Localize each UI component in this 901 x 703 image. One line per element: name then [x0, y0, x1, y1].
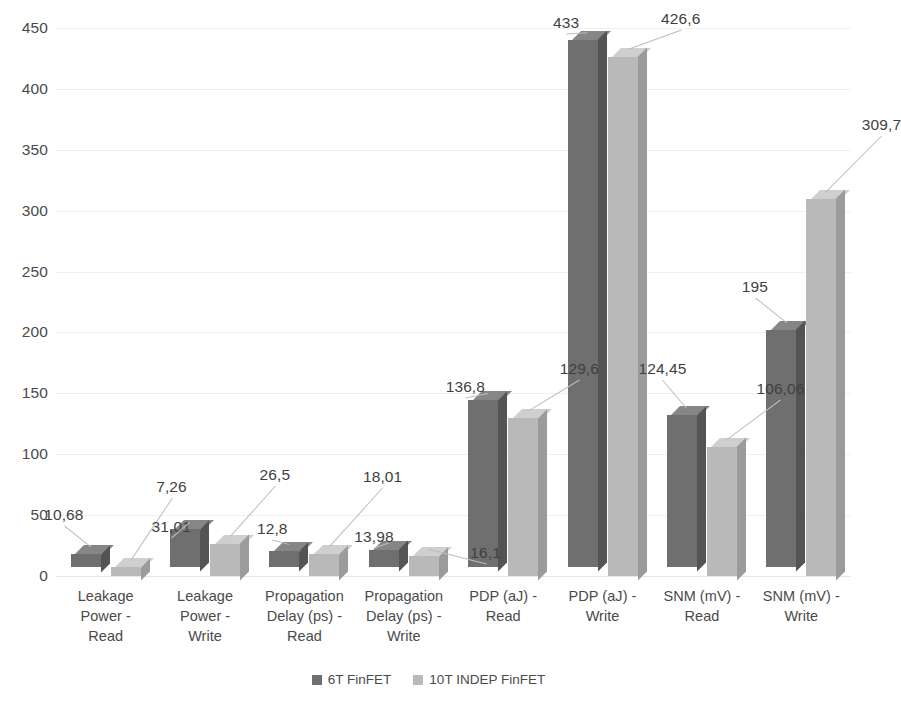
bar-side-face: [697, 406, 706, 571]
x-axis-category-label-line: Leakage: [56, 586, 155, 606]
chart-legend: 6T FinFET10T INDEP FinFET: [0, 672, 857, 687]
data-label: 26,5: [260, 466, 291, 484]
bar-front-face: [369, 550, 399, 567]
bar-side-face: [836, 190, 845, 581]
gridline: [56, 272, 851, 273]
x-axis-category-label-line: Write: [752, 606, 851, 626]
y-axis-tick-label: 400: [0, 80, 48, 98]
data-label: 12,8: [257, 520, 288, 538]
bar: [71, 554, 101, 567]
x-axis-category-label-line: Read: [255, 626, 354, 646]
bar-front-face: [806, 199, 836, 576]
bar-front-face: [71, 554, 101, 567]
bar-front-face: [766, 330, 796, 567]
bar-front-face: [707, 447, 737, 576]
x-axis-category-label-line: Leakage: [155, 586, 254, 606]
y-axis-tick-label: 50: [0, 506, 48, 524]
bar: [111, 567, 141, 576]
data-label: 433: [553, 14, 579, 32]
bar-front-face: [667, 415, 697, 567]
x-axis-category-label-line: Write: [155, 626, 254, 646]
x-axis-category-label-line: Read: [454, 606, 553, 626]
bar-front-face: [568, 40, 598, 567]
gridline: [56, 576, 851, 577]
plot-area: 10,687,2631,0126,512,818,0113,9816,1136,…: [56, 28, 851, 576]
data-label: 16,1: [470, 544, 501, 562]
bar: [409, 556, 439, 576]
data-label: 426,6: [661, 10, 700, 28]
y-axis-tick-label: 250: [0, 263, 48, 281]
x-axis-category-label-line: Write: [553, 606, 652, 626]
x-axis-category-label-line: Read: [56, 626, 155, 646]
y-axis-tick-label: 300: [0, 202, 48, 220]
data-label: 10,68: [44, 506, 83, 524]
legend-label: 10T INDEP FinFET: [429, 672, 545, 687]
bar-side-face: [796, 321, 805, 572]
bar-side-face: [598, 31, 607, 572]
bar-side-face: [538, 409, 547, 580]
bar-front-face: [111, 567, 141, 576]
legend-swatch-icon: [413, 675, 423, 685]
legend-swatch-icon: [312, 675, 322, 685]
bar: [608, 57, 638, 577]
x-axis-category-label-line: Propagation: [354, 586, 453, 606]
legend-item[interactable]: 10T INDEP FinFET: [413, 672, 545, 687]
x-axis-category-label-line: Read: [652, 606, 751, 626]
data-label: 18,01: [363, 468, 402, 486]
bar: [508, 418, 538, 576]
bar: [269, 551, 299, 567]
x-axis-category-label-line: Propagation: [255, 586, 354, 606]
x-axis-category-label: LeakagePower -Write: [155, 586, 254, 646]
gridline: [56, 211, 851, 212]
x-axis-category-label: PDP (aJ) -Write: [553, 586, 652, 626]
x-axis-category-label-line: SNM (mV) -: [652, 586, 751, 606]
bar: [667, 415, 697, 567]
y-axis-tick-label: 450: [0, 19, 48, 37]
data-label: 195: [742, 278, 768, 296]
bar: [210, 544, 240, 576]
y-axis-tick-label: 200: [0, 323, 48, 341]
data-label-leader-line: [64, 526, 91, 548]
data-label: 136,8: [446, 378, 485, 396]
x-axis-category-label: PDP (aJ) -Read: [454, 586, 553, 626]
bar-front-face: [269, 551, 299, 567]
gridline: [56, 332, 851, 333]
gridline: [56, 89, 851, 90]
x-axis-category-label-line: SNM (mV) -: [752, 586, 851, 606]
bar: [309, 554, 339, 576]
bar-side-face: [737, 438, 746, 581]
x-axis-category-label-line: Write: [354, 626, 453, 646]
bar-front-face: [309, 554, 339, 576]
data-label: 7,26: [156, 478, 187, 496]
bar-front-face: [409, 556, 439, 576]
x-axis-category-label-line: Delay (ps) -: [255, 606, 354, 626]
bar-side-face: [200, 520, 209, 571]
data-label-leader-line: [627, 30, 681, 50]
bar-side-face: [638, 48, 647, 581]
data-label: 124,45: [638, 360, 686, 378]
y-axis-tick-label: 0: [0, 567, 48, 585]
bar-front-face: [468, 400, 498, 567]
bar-front-face: [608, 57, 638, 577]
data-label-leader-line: [826, 136, 882, 193]
y-axis-tick-label: 100: [0, 445, 48, 463]
x-axis-category-label-line: Power -: [155, 606, 254, 626]
x-axis-category-label-line: PDP (aJ) -: [553, 586, 652, 606]
y-axis-tick-label: 150: [0, 384, 48, 402]
bar: [369, 550, 399, 567]
x-axis-category-label: PropagationDelay (ps) -Write: [354, 586, 453, 646]
data-label: 106,06: [756, 380, 804, 398]
gridline: [56, 150, 851, 151]
bar: [806, 199, 836, 576]
bar-front-face: [210, 544, 240, 576]
x-axis-category-label: SNM (mV) -Write: [752, 586, 851, 626]
data-label: 309,7: [862, 116, 901, 134]
bar: [468, 400, 498, 567]
x-axis-category-label-line: PDP (aJ) -: [454, 586, 553, 606]
bar: [707, 447, 737, 576]
x-axis-category-label: SNM (mV) -Read: [652, 586, 751, 626]
legend-item[interactable]: 6T FinFET: [312, 672, 392, 687]
bar: [766, 330, 796, 567]
data-label-leader-line: [755, 298, 787, 323]
